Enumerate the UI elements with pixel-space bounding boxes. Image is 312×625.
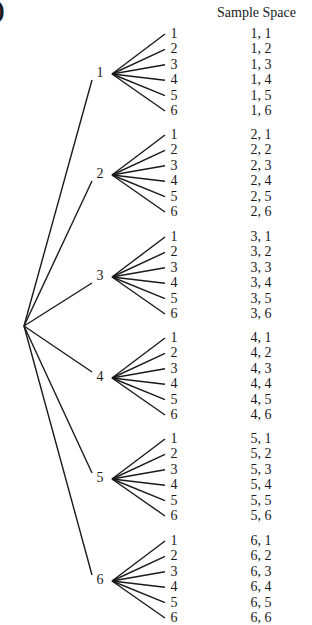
second-level-node-6-4: 4 bbox=[169, 580, 179, 594]
second-level-node-2-6: 6 bbox=[169, 205, 179, 219]
second-level-node-1-3: 3 bbox=[169, 58, 179, 72]
sample-outcome-4-3: 4, 3 bbox=[241, 362, 281, 376]
sample-outcome-6-3: 6, 3 bbox=[241, 565, 281, 579]
sample-outcome-2-3: 2, 3 bbox=[241, 159, 281, 173]
leaf-branch-2-2 bbox=[112, 150, 165, 175]
sample-outcome-1-6: 1, 6 bbox=[241, 104, 281, 118]
second-level-node-2-4: 4 bbox=[169, 174, 179, 188]
sample-outcome-5-4: 5, 4 bbox=[241, 478, 281, 492]
second-level-node-4-5: 5 bbox=[169, 393, 179, 407]
sample-outcome-6-5: 6, 5 bbox=[241, 596, 281, 610]
second-level-node-5-3: 3 bbox=[169, 463, 179, 477]
second-level-node-4-4: 4 bbox=[169, 377, 179, 391]
sample-outcome-5-3: 5, 3 bbox=[241, 463, 281, 477]
second-level-node-6-5: 5 bbox=[169, 596, 179, 610]
first-level-node-6: 6 bbox=[95, 573, 105, 587]
leaf-branch-5-3 bbox=[112, 470, 165, 479]
sample-outcome-4-1: 4, 1 bbox=[241, 331, 281, 345]
second-level-node-3-4: 4 bbox=[169, 276, 179, 290]
second-level-node-3-6: 6 bbox=[169, 307, 179, 321]
leaf-branch-1-2 bbox=[112, 49, 165, 74]
second-level-node-2-2: 2 bbox=[169, 143, 179, 157]
sample-outcome-4-5: 4, 5 bbox=[241, 393, 281, 407]
second-level-node-3-2: 2 bbox=[169, 245, 179, 259]
second-level-node-3-1: 1 bbox=[169, 230, 179, 244]
first-level-node-2: 2 bbox=[95, 167, 105, 181]
sample-outcome-6-2: 6, 2 bbox=[241, 549, 281, 563]
sample-outcome-3-5: 3, 5 bbox=[241, 292, 281, 306]
second-level-node-5-4: 4 bbox=[169, 478, 179, 492]
second-level-node-5-5: 5 bbox=[169, 494, 179, 508]
sample-outcome-5-2: 5, 2 bbox=[241, 447, 281, 461]
leaf-branch-6-2 bbox=[112, 556, 165, 581]
sample-outcome-3-4: 3, 4 bbox=[241, 276, 281, 290]
first-level-node-1: 1 bbox=[95, 66, 105, 80]
second-level-node-6-2: 2 bbox=[169, 549, 179, 563]
second-level-node-2-5: 5 bbox=[169, 190, 179, 204]
second-level-node-1-6: 6 bbox=[169, 104, 179, 118]
leaf-branch-2-1 bbox=[112, 135, 165, 175]
sample-outcome-5-1: 5, 1 bbox=[241, 432, 281, 446]
second-level-node-5-6: 6 bbox=[169, 509, 179, 523]
sample-outcome-2-5: 2, 5 bbox=[241, 190, 281, 204]
sample-outcome-1-1: 1, 1 bbox=[241, 27, 281, 41]
leaf-branch-5-2 bbox=[112, 454, 165, 479]
leaf-branch-2-3 bbox=[112, 166, 165, 175]
sample-outcome-3-2: 3, 2 bbox=[241, 245, 281, 259]
sample-outcome-3-1: 3, 1 bbox=[241, 230, 281, 244]
sample-outcome-4-2: 4, 2 bbox=[241, 346, 281, 360]
leaf-branch-6-3 bbox=[112, 572, 165, 581]
second-level-node-3-3: 3 bbox=[169, 261, 179, 275]
second-level-node-6-3: 3 bbox=[169, 565, 179, 579]
leaf-branch-4-3 bbox=[112, 369, 165, 378]
second-level-node-4-2: 2 bbox=[169, 346, 179, 360]
second-level-node-4-3: 3 bbox=[169, 362, 179, 376]
leaf-branch-1-3 bbox=[112, 65, 165, 74]
sample-outcome-6-1: 6, 1 bbox=[241, 534, 281, 548]
leaf-branch-4-2 bbox=[112, 353, 165, 378]
first-level-node-3: 3 bbox=[95, 269, 105, 283]
second-level-node-1-1: 1 bbox=[169, 27, 179, 41]
sample-outcome-3-3: 3, 3 bbox=[241, 261, 281, 275]
sample-outcome-1-3: 1, 3 bbox=[241, 58, 281, 72]
first-level-node-4: 4 bbox=[95, 370, 105, 384]
sample-outcome-1-2: 1, 2 bbox=[241, 42, 281, 56]
second-level-node-4-6: 6 bbox=[169, 408, 179, 422]
second-level-node-1-5: 5 bbox=[169, 89, 179, 103]
first-level-node-5: 5 bbox=[95, 471, 105, 485]
sample-outcome-2-1: 2, 1 bbox=[241, 128, 281, 142]
sample-outcome-4-6: 4, 6 bbox=[241, 408, 281, 422]
sample-outcome-1-5: 1, 5 bbox=[241, 89, 281, 103]
sample-outcome-3-6: 3, 6 bbox=[241, 307, 281, 321]
sample-outcome-5-6: 5, 6 bbox=[241, 509, 281, 523]
leaf-branch-4-1 bbox=[112, 338, 165, 378]
leaf-branch-1-1 bbox=[112, 34, 165, 74]
second-level-node-3-5: 5 bbox=[169, 292, 179, 306]
leaf-branch-6-1 bbox=[112, 541, 165, 581]
second-level-node-1-4: 4 bbox=[169, 73, 179, 87]
sample-outcome-1-4: 1, 4 bbox=[241, 73, 281, 87]
second-level-node-5-2: 2 bbox=[169, 447, 179, 461]
second-level-node-5-1: 1 bbox=[169, 432, 179, 446]
sample-outcome-6-4: 6, 4 bbox=[241, 580, 281, 594]
second-level-node-6-6: 6 bbox=[169, 611, 179, 625]
second-level-node-2-1: 1 bbox=[169, 128, 179, 142]
leaf-branch-3-1 bbox=[112, 237, 165, 277]
sample-outcome-6-6: 6, 6 bbox=[241, 611, 281, 625]
leaf-branch-5-1 bbox=[112, 439, 165, 479]
sample-outcome-2-6: 2, 6 bbox=[241, 205, 281, 219]
sample-outcome-5-5: 5, 5 bbox=[241, 494, 281, 508]
second-level-node-4-1: 1 bbox=[169, 331, 179, 345]
sample-outcome-4-4: 4, 4 bbox=[241, 377, 281, 391]
leaf-branch-3-3 bbox=[112, 268, 165, 277]
leaf-branch-3-2 bbox=[112, 252, 165, 277]
second-level-node-1-2: 2 bbox=[169, 42, 179, 56]
sample-outcome-2-4: 2, 4 bbox=[241, 174, 281, 188]
second-level-node-6-1: 1 bbox=[169, 534, 179, 548]
sample-outcome-2-2: 2, 2 bbox=[241, 143, 281, 157]
second-level-node-2-3: 3 bbox=[169, 159, 179, 173]
